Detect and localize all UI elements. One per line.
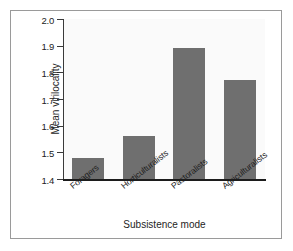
- y-axis-title-anchor: Mean virilocality: [19, 19, 20, 179]
- y-axis-line: [63, 19, 64, 180]
- y-axis-title: Mean virilocality: [50, 19, 61, 179]
- bar-chart: 1.41.51.61.71.81.92.0 ForagersHorticultu…: [11, 11, 283, 240]
- y-tick-mark: [57, 179, 63, 180]
- y-tick: 1.4: [57, 179, 63, 180]
- figure-frame: 1.41.51.61.71.81.92.0 ForagersHorticultu…: [10, 10, 282, 239]
- x-axis-title: Subsistence mode: [63, 219, 266, 230]
